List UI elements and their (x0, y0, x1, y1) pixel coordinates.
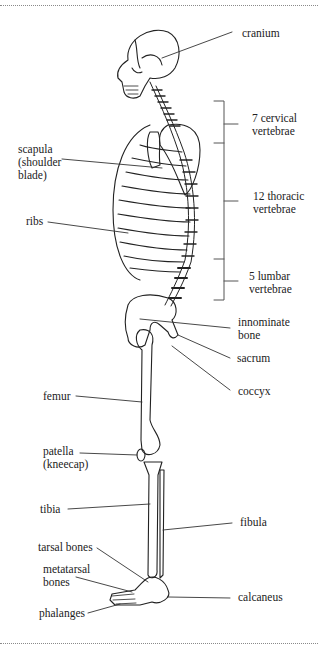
fibula-drawing (160, 470, 164, 578)
label-phalanges: phalanges (39, 607, 85, 620)
label-scapula: scapula (shoulder blade) (18, 143, 61, 182)
vertebrae-bracket (214, 101, 238, 300)
foot-drawing (110, 577, 169, 605)
ribcage-drawing (113, 125, 190, 280)
label-tarsal-bones: tarsal bones (38, 541, 93, 554)
femur-drawing (136, 330, 160, 455)
pelvis-drawing (125, 295, 178, 347)
label-lumbar-vertebrae: 5 lumbar vertebrae (249, 270, 292, 296)
label-thoracic-vertebrae: 12 thoracic vertebrae (253, 190, 304, 216)
patella-drawing (137, 449, 145, 461)
leader-lines (48, 32, 232, 613)
label-calcaneus: calcaneus (238, 591, 283, 604)
label-patella: patella (kneecap) (43, 445, 88, 471)
label-sacrum: sacrum (237, 352, 270, 365)
label-tibia: tibia (40, 503, 60, 516)
skull-drawing (118, 30, 179, 98)
label-fibula: fibula (240, 516, 267, 529)
label-femur: femur (43, 390, 70, 403)
label-metatarsal-bones: metatarsal bones (43, 563, 90, 589)
label-coccyx: coccyx (238, 385, 271, 398)
label-cervical-vertebrae: 7 cervical vertebrae (252, 112, 297, 138)
label-cranium: cranium (242, 27, 280, 40)
tibia-drawing (144, 462, 162, 578)
label-ribs: ribs (26, 215, 43, 228)
label-innominate-bone: innominate bone (238, 316, 290, 342)
